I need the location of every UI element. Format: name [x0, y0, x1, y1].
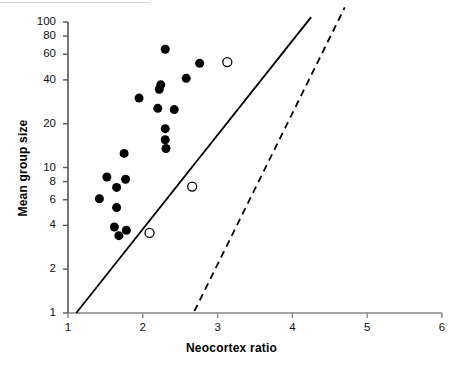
axis-lines [68, 22, 442, 313]
chart-figure: Neocortex ratio Mean group size 12468102… [0, 0, 463, 369]
data-point-filled [161, 144, 170, 153]
data-point-filled [182, 74, 191, 83]
data-point-open [188, 182, 197, 191]
data-point-filled [102, 173, 111, 182]
solid-regression-line-segment [76, 17, 311, 313]
data-point-open [223, 58, 232, 67]
data-point-filled [156, 80, 165, 89]
data-point-filled [161, 135, 170, 144]
data-point-filled [170, 105, 179, 114]
data-point-filled [120, 149, 129, 158]
data-point-filled [121, 175, 130, 184]
data-point-filled [114, 231, 123, 240]
data-point-filled [153, 104, 162, 113]
data-point-filled [112, 183, 121, 192]
data-point-filled [161, 45, 170, 54]
plot-area [0, 0, 463, 369]
data-point-filled [110, 223, 119, 232]
data-point-filled [135, 94, 144, 103]
data-point-filled [95, 194, 104, 203]
data-point-filled [112, 203, 121, 212]
data-point-filled [195, 59, 204, 68]
data-point-filled [122, 226, 131, 235]
dashed-regression-line-segment [194, 7, 344, 311]
regression-lines [76, 7, 345, 313]
data-point-open [145, 228, 154, 237]
data-point-filled [161, 124, 170, 133]
axis-tick-marks [63, 22, 442, 318]
